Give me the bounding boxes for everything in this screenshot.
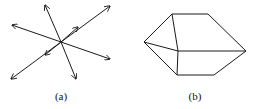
arrow-up	[45, 5, 61, 42]
arrow-upper-right	[61, 6, 110, 42]
arrow-short-upper-right	[61, 27, 78, 42]
arrow-lower-right	[61, 42, 110, 59]
figure-b-polyhedron	[144, 14, 246, 75]
figure-a-arrows	[11, 5, 110, 79]
edge-center-to-bottom	[177, 51, 178, 75]
figure-a-label: (a)	[41, 90, 81, 102]
arrow-upper-left	[12, 25, 61, 42]
diagram-canvas	[0, 0, 255, 109]
edge-top-to-center	[172, 14, 178, 51]
arrow-down	[61, 42, 76, 79]
figure-b-label: (b)	[175, 90, 215, 102]
outer-outline	[144, 14, 246, 75]
arrow-short-lower-left	[45, 42, 61, 55]
